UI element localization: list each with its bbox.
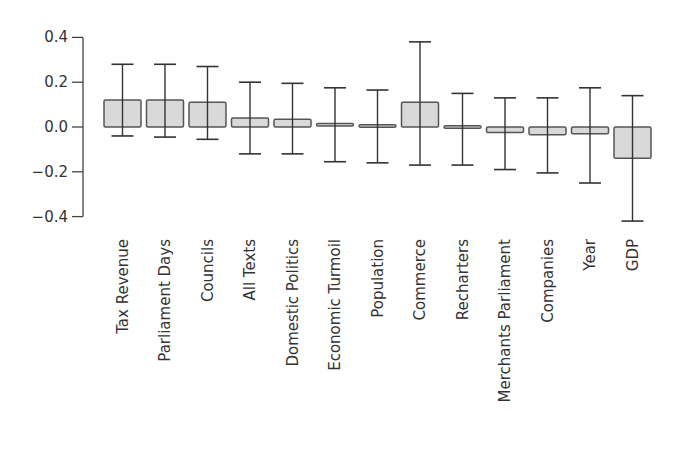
x-category-label: Domestic Politics <box>284 239 302 367</box>
x-category-label: Parliament Days <box>156 239 174 362</box>
x-category-label: Councils <box>199 239 217 302</box>
bar-group <box>147 64 184 137</box>
bar-group <box>232 82 269 154</box>
bar-chart: 0.40.20.0−0.2−0.4 Tax RevenueParliament … <box>0 0 676 458</box>
x-category-label: Tax Revenue <box>114 239 132 335</box>
bar-group <box>444 93 481 165</box>
x-category-label: Recharters <box>454 239 472 320</box>
x-category-label: GDP <box>624 239 642 271</box>
y-tick-label: 0.4 <box>44 28 68 46</box>
bar-group <box>359 90 396 163</box>
bars <box>104 42 651 221</box>
bar-group <box>104 64 141 136</box>
y-tick-label: −0.4 <box>32 208 68 226</box>
x-category-label: Year <box>581 238 599 272</box>
bar-group <box>487 98 524 170</box>
x-category-label: All Texts <box>241 239 259 301</box>
x-category-label: Economic Turmoil <box>326 239 344 371</box>
bar-group <box>274 83 311 154</box>
x-category-label: Commerce <box>411 239 429 320</box>
bar-group <box>189 67 226 140</box>
x-axis-labels: Tax RevenueParliament DaysCouncilsAll Te… <box>114 238 642 402</box>
bar-group <box>572 88 609 183</box>
x-category-label: Companies <box>539 239 557 323</box>
bar-group <box>402 42 439 165</box>
y-tick-label: 0.2 <box>44 73 68 91</box>
bar-group <box>529 98 566 173</box>
y-tick-label: −0.2 <box>32 163 68 181</box>
x-category-label: Merchants Parliament <box>496 239 514 403</box>
bar-group <box>614 96 651 221</box>
y-axis: 0.40.20.0−0.2−0.4 <box>32 28 83 225</box>
bar-group <box>317 88 354 162</box>
y-tick-label: 0.0 <box>44 118 68 136</box>
x-category-label: Population <box>369 239 387 318</box>
